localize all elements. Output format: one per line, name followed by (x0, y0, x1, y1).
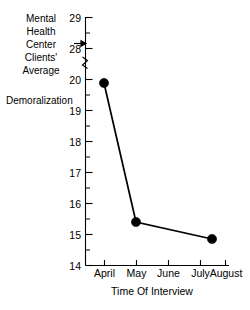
x-axis-title: Time Of Interview (111, 285, 193, 297)
reference-label-line-1: Mental (26, 13, 56, 24)
y-tick-label-19: 19 (69, 105, 81, 117)
data-point-august (207, 234, 216, 243)
reference-label-line-2: Health (27, 26, 56, 37)
reference-label-line-5: Average (22, 65, 60, 76)
y-axis-break-icon (83, 57, 88, 69)
y-tick-label-17: 17 (69, 167, 81, 179)
reference-label-line-3: Center (26, 39, 57, 50)
x-tick-label-june: June (157, 267, 180, 279)
y-tick-label-28: 28 (69, 43, 81, 55)
x-tick-label-may: May (127, 267, 148, 279)
y-tick-label-18: 18 (69, 136, 81, 148)
data-point-may (131, 217, 140, 226)
chart-container: 29 28 20 19 18 17 16 15 14 April May Jun… (0, 0, 250, 310)
y-tick-label-16: 16 (69, 198, 81, 210)
data-point-april (99, 78, 108, 87)
y-tick-label-20: 20 (69, 74, 81, 86)
reference-label-line-4: Clients' (25, 52, 58, 63)
y-tick-label-15: 15 (69, 229, 81, 241)
x-tick-label-august: August (210, 267, 243, 279)
reference-annotation-label: Mental Health Center Clients' Average (22, 13, 60, 76)
series-name-label: Demoralization (6, 95, 73, 106)
y-tick-label-29: 29 (69, 12, 81, 24)
y-tick-label-14: 14 (69, 260, 81, 272)
series-line-demoralization (104, 83, 212, 239)
line-chart: 29 28 20 19 18 17 16 15 14 April May Jun… (0, 0, 250, 310)
x-tick-label-july: July (191, 267, 210, 279)
x-tick-label-april: April (94, 267, 115, 279)
